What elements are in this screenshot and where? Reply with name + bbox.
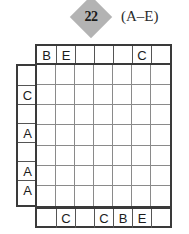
puzzle-board: BEC CCBE CAAA AACCBE <box>0 0 189 234</box>
grid-cell-r3c3[interactable] <box>75 105 94 125</box>
grid-cell-r4c6[interactable] <box>132 125 151 145</box>
grid-cell-r7c4[interactable] <box>94 186 113 206</box>
grid-cell-r1c2[interactable] <box>56 65 75 85</box>
grid-cell-r6c5[interactable] <box>113 166 132 186</box>
grid-cell-r2c1[interactable] <box>37 85 56 105</box>
clue-cell-bottom-6[interactable]: E <box>132 209 151 228</box>
grid-cell-r2c5[interactable] <box>113 85 132 105</box>
grid-cell-r4c4[interactable] <box>94 125 113 145</box>
grid-cell-r7c5[interactable] <box>113 186 132 206</box>
grid-cell-r3c7[interactable] <box>151 105 170 125</box>
grid-cell-r5c5[interactable] <box>113 146 132 166</box>
grid-cell-r3c4[interactable] <box>94 105 113 125</box>
grid-cell-r5c1[interactable] <box>37 146 56 166</box>
grid-cell-r1c4[interactable] <box>94 65 113 85</box>
grid-cell-r7c1[interactable] <box>37 186 56 206</box>
grid-cell-r6c3[interactable] <box>75 166 94 186</box>
grid-cell-r7c6[interactable] <box>132 186 151 206</box>
clue-band-left: CAAA <box>16 64 37 207</box>
grid-cell-r4c3[interactable] <box>75 125 94 145</box>
grid-cell-r1c5[interactable] <box>113 65 132 85</box>
grid-cell-r3c1[interactable] <box>37 105 56 125</box>
clue-band-bottom: CCBE <box>35 207 172 228</box>
grid-cell-r1c6[interactable] <box>132 65 151 85</box>
clue-cell-bottom-3[interactable] <box>75 209 94 228</box>
grid-cell-r5c7[interactable] <box>151 146 170 166</box>
grid-cell-r3c2[interactable] <box>56 105 75 125</box>
grid-cell-r2c3[interactable] <box>75 85 94 105</box>
grid-cell-r5c2[interactable] <box>56 146 75 166</box>
grid-cell-r1c3[interactable] <box>75 65 94 85</box>
clue-cell-bottom-4[interactable]: C <box>94 209 113 228</box>
clue-cell-bottom-2[interactable]: C <box>56 209 75 228</box>
grid-cell-r2c2[interactable] <box>56 85 75 105</box>
grid-cell-r7c7[interactable] <box>151 186 170 206</box>
grid-cell-r7c3[interactable] <box>75 186 94 206</box>
grid-cell-r6c4[interactable] <box>94 166 113 186</box>
clue-cell-bottom-7[interactable] <box>151 209 170 228</box>
solution-grid <box>35 63 172 208</box>
grid-cell-r6c1[interactable] <box>37 166 56 186</box>
grid-cell-r4c7[interactable] <box>151 125 170 145</box>
grid-cell-r1c1[interactable] <box>37 65 56 85</box>
grid-cell-r3c5[interactable] <box>113 105 132 125</box>
grid-cell-r2c7[interactable] <box>151 85 170 105</box>
grid-cell-r6c2[interactable] <box>56 166 75 186</box>
grid-cell-r6c7[interactable] <box>151 166 170 186</box>
grid-cell-r4c2[interactable] <box>56 125 75 145</box>
grid-cell-r3c6[interactable] <box>132 105 151 125</box>
grid-cell-r4c5[interactable] <box>113 125 132 145</box>
grid-cell-r2c6[interactable] <box>132 85 151 105</box>
grid-cell-r5c3[interactable] <box>75 146 94 166</box>
clue-cell-bottom-1[interactable] <box>37 209 56 228</box>
grid-cell-r1c7[interactable] <box>151 65 170 85</box>
grid-cell-r4c1[interactable] <box>37 125 56 145</box>
grid-cell-r2c4[interactable] <box>94 85 113 105</box>
grid-cell-r7c2[interactable] <box>56 186 75 206</box>
grid-cell-r6c6[interactable] <box>132 166 151 186</box>
clue-band-top: BEC <box>35 44 172 65</box>
grid-cell-r5c4[interactable] <box>94 146 113 166</box>
grid-cell-r5c6[interactable] <box>132 146 151 166</box>
clue-cell-bottom-5[interactable]: B <box>113 209 132 228</box>
